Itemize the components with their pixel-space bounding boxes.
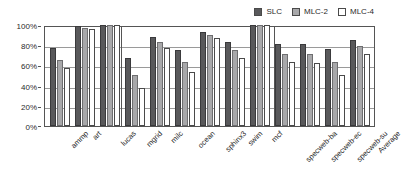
bar: [207, 35, 213, 126]
bar: [275, 44, 281, 126]
y-axis-tick-mark: [38, 87, 41, 88]
x-axis: ammpartlucasmgridmilcoceansphinx3swimmcf…: [44, 127, 375, 184]
y-axis-tick-label: 20%: [21, 102, 37, 111]
bar: [164, 48, 170, 126]
bar: [307, 54, 313, 126]
bar: [232, 50, 238, 126]
y-axis-tick-mark: [38, 126, 41, 127]
bar: [150, 37, 156, 126]
bar: [332, 62, 338, 126]
legend-swatch-icon: [254, 8, 262, 16]
bar: [132, 75, 138, 127]
bar: [82, 28, 88, 126]
x-axis-tick-label: milc: [168, 129, 184, 145]
bar: [350, 40, 356, 126]
x-axis-tick-label: mcf: [270, 129, 285, 144]
bar: [75, 26, 81, 126]
y-axis: 0%20%40%60%80%100%: [0, 26, 41, 127]
x-axis-tick-label: mgrid: [145, 129, 165, 149]
bar: [64, 68, 70, 126]
bar: [100, 25, 106, 126]
bar: [257, 25, 263, 126]
bar: [214, 38, 220, 126]
bar-group: [347, 27, 372, 126]
x-axis-tick-label: swim: [246, 129, 264, 147]
bar: [339, 75, 345, 127]
x-axis-tick-label: lucas: [119, 129, 138, 148]
bar: [357, 46, 363, 126]
bar: [125, 58, 131, 126]
y-axis-tick-mark: [38, 66, 41, 67]
legend-label: MLC-4: [350, 8, 374, 16]
bar: [175, 50, 181, 126]
bar-group: [172, 27, 197, 126]
bar: [239, 58, 245, 126]
bar-group: [247, 27, 272, 126]
legend-entry-slc[interactable]: SLC: [254, 8, 282, 16]
bar: [157, 42, 163, 126]
bar: [200, 32, 206, 126]
y-axis-tick-mark: [38, 46, 41, 47]
legend-swatch-icon: [292, 8, 300, 16]
bar-group: [297, 27, 322, 126]
bar: [107, 25, 113, 126]
bar-group: [122, 27, 147, 126]
bar: [325, 49, 331, 126]
bar-group: [97, 27, 122, 126]
y-axis-tick-label: 60%: [21, 62, 37, 71]
bar-group: [197, 27, 222, 126]
bar: [250, 25, 256, 126]
y-axis-tick-label: 40%: [21, 82, 37, 91]
legend-label: MLC-2: [304, 8, 328, 16]
plot-area: [44, 26, 375, 127]
y-axis-tick-mark: [38, 26, 41, 27]
bar: [57, 60, 63, 126]
bar: [289, 62, 295, 126]
x-axis-tick-label: ocean: [196, 129, 217, 150]
legend-entry-mlc-4[interactable]: MLC-4: [338, 8, 374, 16]
bar: [50, 48, 56, 126]
bars-layer: [45, 27, 374, 126]
bar-group: [222, 27, 247, 126]
bar: [300, 44, 306, 126]
bar-group: [147, 27, 172, 126]
legend-entry-mlc-2[interactable]: MLC-2: [292, 8, 328, 16]
bar: [89, 29, 95, 126]
bar-group: [322, 27, 347, 126]
y-axis-tick-mark: [38, 107, 41, 108]
x-axis-tick-label: art: [91, 129, 104, 142]
legend-swatch-icon: [338, 8, 346, 16]
legend-label: SLC: [266, 8, 282, 16]
bar: [189, 72, 195, 126]
bar: [114, 25, 120, 126]
bar: [264, 25, 270, 126]
bar-group: [272, 27, 297, 126]
y-axis-tick-label: 80%: [21, 42, 37, 51]
x-axis-tick-label: sphinx3: [223, 129, 248, 154]
bar: [182, 62, 188, 126]
bar-group: [72, 27, 97, 126]
y-axis-tick-label: 0%: [25, 123, 37, 132]
chart-legend: SLCMLC-2MLC-4: [0, 5, 382, 19]
bar: [139, 88, 145, 126]
x-axis-tick-label: ammp: [69, 129, 90, 150]
bar: [282, 54, 288, 126]
bar: [364, 54, 370, 126]
bar: [225, 42, 231, 126]
bar: [314, 63, 320, 126]
bar-group: [47, 27, 72, 126]
y-axis-tick-label: 100%: [17, 22, 37, 31]
